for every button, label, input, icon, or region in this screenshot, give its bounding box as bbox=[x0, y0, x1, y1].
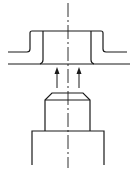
arrow-up-icon bbox=[77, 67, 82, 88]
punch-head bbox=[45, 93, 90, 131]
punch-die-diagram bbox=[0, 0, 137, 170]
arrow-up-icon bbox=[55, 67, 60, 88]
flange-inner-wall-left bbox=[40, 31, 43, 64]
flanged-sheet-outline bbox=[8, 31, 127, 52]
flange-inner-wall-right bbox=[91, 31, 94, 64]
